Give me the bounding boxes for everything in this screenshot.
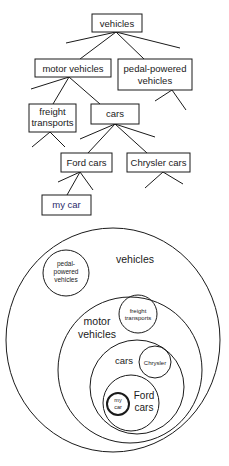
set-cars: cars [90, 340, 184, 434]
edge-cars-chrysler [115, 124, 147, 153]
set-label-line2: powered [54, 268, 79, 276]
tree-node-freight-transports: freight transports [29, 104, 76, 132]
edge-motor-vehicles-cars [69, 77, 100, 104]
tree-node-cars: cars [91, 104, 139, 124]
node-label-line1: pedal-powered [124, 63, 187, 74]
set-label-line1: motor [84, 315, 111, 327]
edge-stub [116, 32, 180, 48]
tree-node-vehicles: vehicles [92, 14, 142, 32]
edge-stub [80, 124, 115, 139]
node-label: vehicles [100, 18, 135, 29]
edge-cars-ford [88, 124, 115, 153]
edge-stub [155, 90, 172, 101]
set-ford-cars: Ford cars [103, 375, 159, 431]
edge-stub [32, 132, 50, 147]
tree-node-ford-cars: Ford cars [61, 153, 112, 172]
edge-stub [50, 132, 65, 147]
set-label-line1: Ford [134, 390, 155, 401]
node-label-line2: transports [31, 117, 73, 128]
edge-stub [163, 172, 183, 184]
node-label: Chrysler cars [131, 157, 187, 168]
set-label-line3: vehicles [54, 276, 78, 283]
edge-stub [172, 90, 186, 110]
node-label-line1: freight [39, 106, 66, 117]
set-label: vehicles [116, 253, 154, 265]
tree-node-chrysler-cars: Chrysler cars [127, 153, 190, 172]
tree-node-motor-vehicles: motor vehicles [35, 59, 111, 77]
diagram-canvas: vehicles motor vehicles pedal-powered ve… [0, 0, 229, 466]
edge-stub [80, 172, 93, 190]
set-vehicles: vehicles [6, 228, 220, 452]
set-label-line1: pedal- [57, 260, 75, 268]
set-label-line2: vehicles [78, 328, 116, 340]
set-label: cars [115, 355, 133, 366]
node-label: Ford cars [66, 157, 106, 168]
set-label: Chrysler [144, 360, 166, 366]
node-label: cars [106, 108, 124, 119]
set-freight-transports: freight transports [119, 295, 157, 333]
set-chrysler: Chrysler [139, 346, 171, 378]
set-label-line1: freight [130, 308, 147, 314]
node-label-line2: vehicles [138, 75, 173, 86]
venn-diagram: vehicles pedal- powered vehicles motor v… [6, 228, 220, 452]
set-label-line1: my [114, 397, 122, 403]
edge-vehicles-pedal-powered [116, 32, 144, 59]
set-my-car: my car [107, 393, 129, 415]
node-label: my car [52, 199, 81, 210]
set-label-line2: car [114, 404, 122, 410]
set-label-line2: transports [125, 315, 152, 321]
set-label-line2: cars [135, 402, 154, 413]
tree-node-pedal-powered-vehicles: pedal-powered vehicles [118, 59, 192, 90]
node-label: motor vehicles [42, 63, 103, 74]
tree-node-my-car: my car [42, 195, 91, 215]
tree-diagram: vehicles motor vehicles pedal-powered ve… [29, 14, 192, 215]
edge-stub [145, 172, 163, 188]
set-pedal-powered-vehicles: pedal- powered vehicles [43, 250, 89, 296]
edge-stub [115, 124, 155, 137]
